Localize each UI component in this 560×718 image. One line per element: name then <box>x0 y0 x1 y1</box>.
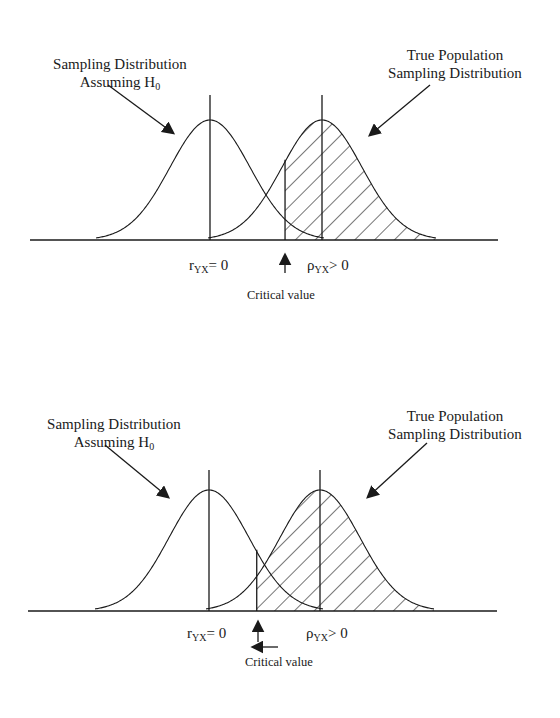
diagram-panel-top: Sampling Distribution Assuming H0 True P… <box>0 0 560 360</box>
true-label-line2: Sampling Distribution <box>375 64 535 82</box>
null-mean-label: rYX= 0 <box>187 625 226 643</box>
null-distribution-label: Sampling Distribution Assuming H0 <box>40 55 200 96</box>
null-label-line1: Sampling Distribution <box>40 55 200 73</box>
null-distribution-label: Sampling Distribution Assuming H0 <box>34 415 194 456</box>
true-mean-label: ρYX> 0 <box>307 257 349 275</box>
true-label-line1: True Population <box>375 407 535 425</box>
critical-value-label: Critical value <box>247 288 315 303</box>
true-mean-label: ρYX> 0 <box>306 625 348 643</box>
power-region-hatch <box>285 120 436 240</box>
true-distribution-label: True Population Sampling Distribution <box>375 407 535 443</box>
diagram-panel-bottom: Sampling Distribution Assuming H0 True P… <box>0 370 560 718</box>
true-distribution-label: True Population Sampling Distribution <box>375 46 535 82</box>
power-region-hatch <box>257 490 434 611</box>
true-label-line1: True Population <box>375 46 535 64</box>
null-label-line2: Assuming H0 <box>34 433 194 456</box>
null-label-line2: Assuming H0 <box>40 73 200 96</box>
true-label-line2: Sampling Distribution <box>375 425 535 443</box>
true-pointer-arrow <box>370 85 430 135</box>
true-pointer-arrow <box>368 443 427 497</box>
null-label-line1: Sampling Distribution <box>34 415 194 433</box>
null-mean-label: rYX= 0 <box>189 257 228 275</box>
critical-value-label: Critical value <box>245 655 313 670</box>
